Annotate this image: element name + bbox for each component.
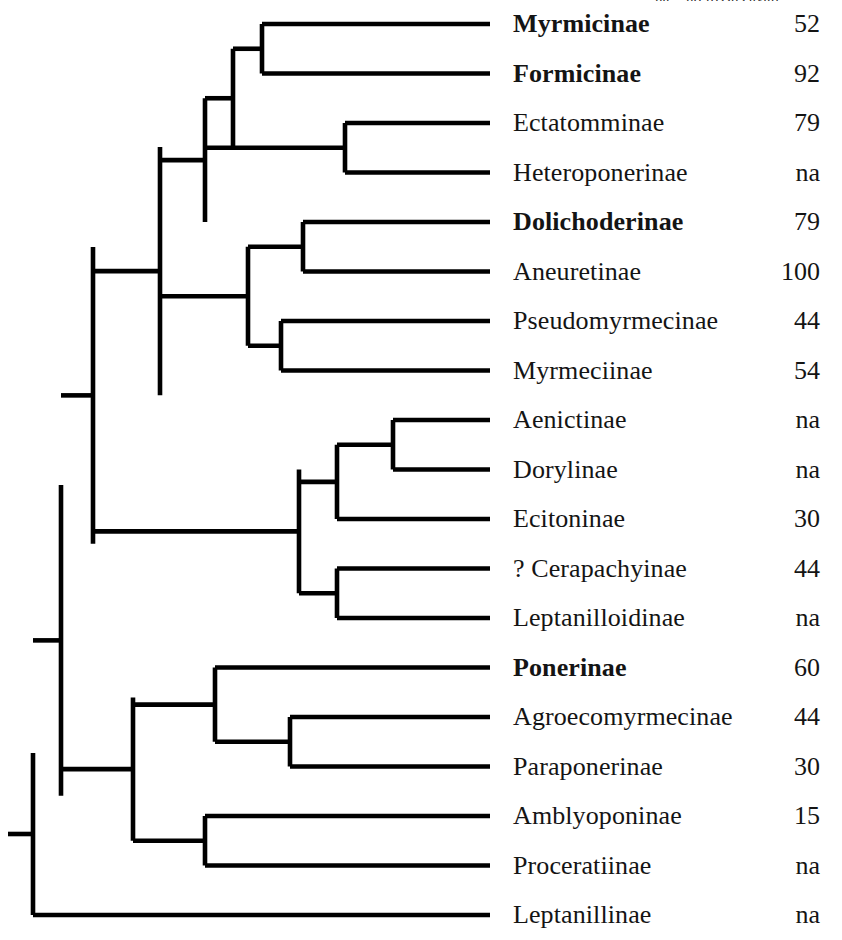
tip-row: Ectatomminae79 [498, 103, 842, 143]
fossil-age-value: 54 [794, 358, 820, 384]
tip-row: Ponerinae60 [498, 648, 842, 688]
taxon-label: Pseudomyrmecinae [498, 308, 718, 334]
tip-row: Heteroponerinaena [498, 153, 842, 193]
fossil-age-value: 92 [794, 61, 820, 87]
tip-row: Aenictinaena [498, 400, 842, 440]
taxon-label: Myrmeciinae [498, 358, 653, 384]
fossil-age-value: 44 [794, 308, 820, 334]
taxon-label: Aenictinae [498, 407, 627, 433]
fossil-age-value: na [795, 160, 820, 186]
tip-row: Myrmeciinae54 [498, 351, 842, 391]
taxon-label: Dorylinae [498, 457, 618, 483]
fossil-age-value: 44 [794, 704, 820, 730]
fossil-age-value: na [795, 902, 820, 928]
fossil-age-value: na [795, 605, 820, 631]
fossil-age-value: 100 [781, 259, 820, 285]
fossil-age-value: na [795, 407, 820, 433]
taxon-label: Heteroponerinae [498, 160, 688, 186]
fossil-age-value: na [795, 853, 820, 879]
taxon-label: Aneuretinae [498, 259, 641, 285]
taxon-label: Formicinae [498, 61, 641, 87]
tip-row: Pseudomyrmecinae44 [498, 301, 842, 341]
tip-row: Dolichoderinae79 [498, 202, 842, 242]
tip-row: Myrmicinae52 [498, 4, 842, 44]
tip-row: Paraponerinae30 [498, 747, 842, 787]
fossil-age-value: 79 [794, 110, 820, 136]
tip-row: Formicinae92 [498, 54, 842, 94]
tip-row: Agroecomyrmecinae44 [498, 697, 842, 737]
taxon-label: Ponerinae [498, 655, 627, 681]
taxon-label: Paraponerinae [498, 754, 663, 780]
taxon-label: Myrmicinae [498, 11, 650, 37]
tip-row: ? Cerapachyinae44 [498, 549, 842, 589]
tip-row: Aneuretinae100 [498, 252, 842, 292]
taxon-label: Agroecomyrmecinae [498, 704, 733, 730]
tip-row: Leptanilloidinaena [498, 598, 842, 638]
taxon-label: Proceratiinae [498, 853, 651, 879]
taxon-label: Ecitoninae [498, 506, 625, 532]
fossil-age-value: na [795, 457, 820, 483]
fossil-age-value: 52 [794, 11, 820, 37]
fossil-age-value: 44 [794, 556, 820, 582]
tip-row: Amblyoponinae15 [498, 796, 842, 836]
tip-row: Leptanillinaena [498, 895, 842, 935]
tip-row: Proceratiinaena [498, 846, 842, 886]
fossil-age-value: 30 [794, 506, 820, 532]
taxon-label: Amblyoponinae [498, 803, 682, 829]
tip-row: Ecitoninae30 [498, 499, 842, 539]
tip-row: Dorylinaena [498, 450, 842, 490]
taxon-label: Dolichoderinae [498, 209, 683, 235]
taxon-label: ? Cerapachyinae [498, 556, 687, 582]
taxon-label: Ectatomminae [498, 110, 664, 136]
fossil-age-value: 15 [794, 803, 820, 829]
taxon-label: Leptanilloidinae [498, 605, 685, 631]
fossil-age-value: 79 [794, 209, 820, 235]
phylogenetic-tree-figure: na = no fossils avail Myrmicinae52Formic… [0, 0, 842, 940]
taxon-label: Leptanillinae [498, 902, 651, 928]
fossil-age-value: 60 [794, 655, 820, 681]
fossil-age-value: 30 [794, 754, 820, 780]
